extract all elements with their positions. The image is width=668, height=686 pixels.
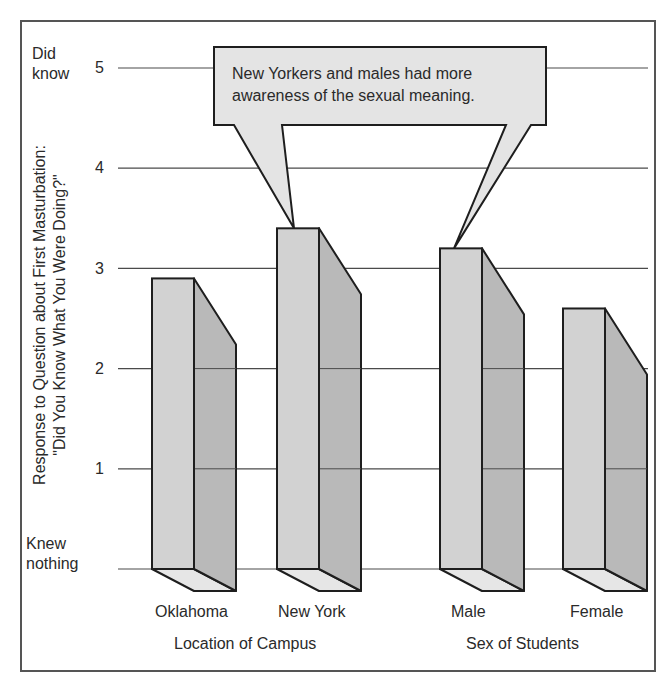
bars [152,228,647,591]
bar-side-face [319,228,361,591]
y-bottom-label-line2: nothing [26,554,79,574]
callout-line1: New Yorkers and males had more [232,63,522,85]
y-top-label-line1: Did [32,44,69,64]
x-label-female: Female [570,603,623,621]
y-tick-3: 3 [95,260,115,278]
callout-text: New Yorkers and males had more awareness… [232,63,522,107]
x-label-oklahoma: Oklahoma [155,603,228,621]
x-label-new-york: New York [278,603,346,621]
x-label-male: Male [451,603,486,621]
bar-side-face [605,308,647,591]
bar-male [440,248,524,591]
y-top-label-line2: know [32,64,69,84]
bar-front-face [152,278,194,569]
bar-female [563,308,647,591]
x-group-label-location: Location of Campus [174,635,316,653]
bar-oklahoma [152,278,236,591]
y-tick-1: 1 [95,460,115,478]
bar-front-face [440,248,482,569]
bar-side-face [194,278,236,591]
y-axis-title: Response to Question about First Masturb… [30,105,70,525]
y-tick-4: 4 [95,159,115,177]
y-top-label: Did know [32,44,69,84]
y-tick-2: 2 [95,360,115,378]
y-axis-title-line2: "Did You Know What You Were Doing?" [50,105,70,525]
bar-front-face [563,308,605,569]
y-axis-title-line1: Response to Question about First Masturb… [30,105,50,525]
y-tick-5: 5 [95,59,115,77]
callout-line2: awareness of the sexual meaning. [232,85,522,107]
y-bottom-label-line1: Knew [26,534,79,554]
bar-side-face [482,248,524,591]
bar-new-york [277,228,361,591]
bar-front-face [277,228,319,569]
y-bottom-label: Knew nothing [26,534,79,574]
x-group-label-sex: Sex of Students [466,635,579,653]
